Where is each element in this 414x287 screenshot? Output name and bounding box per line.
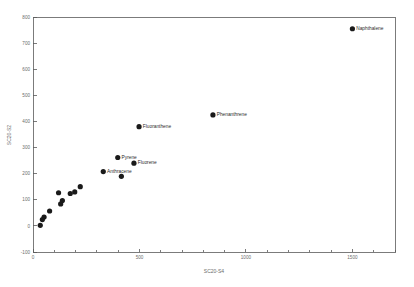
- data-point: [58, 201, 63, 206]
- data-point: [115, 155, 120, 160]
- y-tick-label: 800: [22, 15, 30, 20]
- x-tick-label: 1500: [347, 255, 358, 260]
- y-tick-label: 0: [27, 224, 30, 229]
- scatter-plot-figure: 050010001500 -10001002003004005006007008…: [0, 0, 414, 287]
- data-point: [72, 189, 77, 194]
- y-tick-label: 600: [22, 67, 30, 72]
- data-point: [119, 174, 124, 179]
- data-point: [47, 208, 52, 213]
- x-tick-label: 500: [136, 255, 144, 260]
- data-point-label: Phenanthrene: [217, 112, 247, 117]
- x-tick-label: 1000: [241, 255, 252, 260]
- x-tick-label: 0: [32, 255, 35, 260]
- data-point: [101, 169, 106, 174]
- y-tick-label: 500: [22, 93, 30, 98]
- x-axis-title: SC20-S4: [204, 268, 225, 274]
- y-tick-label: 100: [22, 197, 30, 202]
- data-point-label: Anthracene: [107, 169, 132, 174]
- data-point-label: Pyrene: [122, 155, 138, 160]
- data-point: [131, 161, 136, 166]
- data-point-label: Naphthalene: [356, 26, 384, 31]
- data-point: [56, 190, 61, 195]
- y-tick-label: 200: [22, 171, 30, 176]
- data-point-label: Fluoranthene: [143, 124, 172, 129]
- y-tick-label: 400: [22, 119, 30, 124]
- data-point: [350, 26, 355, 31]
- data-point: [136, 124, 141, 129]
- data-point: [210, 112, 215, 117]
- data-point-label: Fluorene: [138, 160, 157, 165]
- data-point: [40, 217, 45, 222]
- data-point: [38, 223, 43, 228]
- data-point: [78, 184, 83, 189]
- y-axis-title: SC20-S2: [6, 125, 12, 146]
- data-point: [68, 191, 73, 196]
- y-tick-label: -100: [21, 250, 31, 255]
- y-tick-label: 700: [22, 41, 30, 46]
- y-tick-label: 300: [22, 145, 30, 150]
- figure-background: [0, 0, 414, 287]
- chart-canvas: 050010001500 -10001002003004005006007008…: [0, 0, 414, 287]
